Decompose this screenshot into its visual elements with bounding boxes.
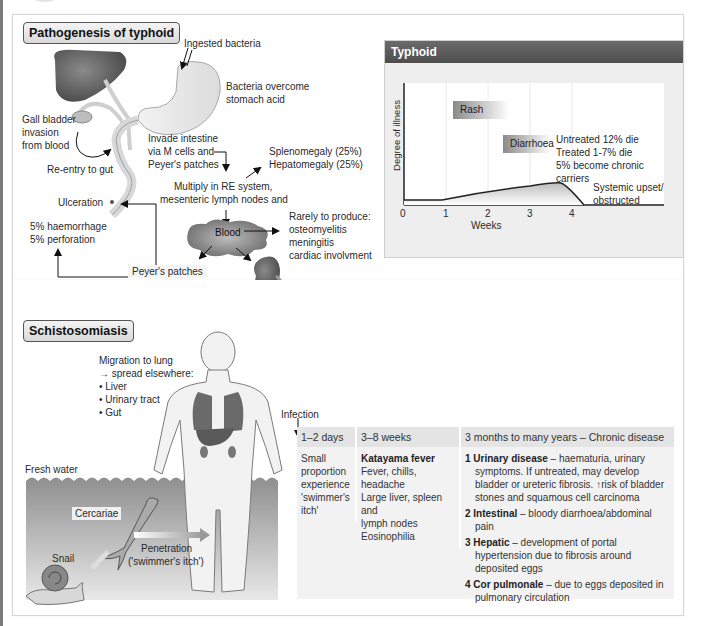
text-line: itch' <box>301 504 351 517</box>
text-line: Small <box>301 452 351 465</box>
label-snail: Snail <box>52 552 74 565</box>
table-cell-katayama: Katayama fever Fever, chills, headache L… <box>357 447 461 548</box>
text-line: Fever, chills, headache <box>361 465 455 491</box>
label-infection: Infection <box>281 408 319 421</box>
kidney-icon-right <box>228 446 236 458</box>
label-spread-elsewhere: → spread elsewhere: <box>99 367 194 380</box>
table-header-1-2-days: 1–2 days <box>297 427 357 447</box>
label-migration-lung: Migration to lung <box>99 354 173 367</box>
label-site-gut: • Gut <box>99 406 121 419</box>
label-swimmers-itch: ('swimmer's itch') <box>128 555 204 568</box>
text-line: proportion <box>301 465 351 478</box>
table-cell-early: Small proportion experience 'swimmer's i… <box>297 447 357 522</box>
item-number: 4 <box>465 579 471 590</box>
item-title: Urinary disease <box>473 453 548 464</box>
table-col-chronic: 3 months to many years – Chronic disease… <box>461 427 674 599</box>
text-line: Eosinophilia <box>361 530 455 543</box>
table-col-1-2-days: 1–2 days Small proportion experience 'sw… <box>297 427 357 599</box>
table-col-3-8-weeks: 3–8 weeks Katayama fever Fever, chills, … <box>357 427 461 599</box>
text-line: experience <box>301 478 351 491</box>
label-fresh-water: Fresh water <box>25 463 78 476</box>
label-site-liver: • Liver <box>99 380 127 393</box>
chronic-item-hepatic: 3 Hepatic – development of portal hypert… <box>465 536 670 575</box>
kidney-icon-left <box>200 446 208 458</box>
table-header-3-8-weeks: 3–8 weeks <box>357 427 461 447</box>
table-header-chronic: 3 months to many years – Chronic disease <box>461 427 674 447</box>
item-title: Intestinal <box>473 508 517 519</box>
text-line: Large liver, spleen and <box>361 491 455 517</box>
katayama-title: Katayama fever <box>361 452 455 465</box>
item-number: 2 <box>465 508 471 519</box>
chronic-item-intestinal: 2 Intestinal – bloody diarrhoea/abdomina… <box>465 507 670 533</box>
chronic-item-cor-pulmonale: 4 Cor pulmonale – due to eggs deposited … <box>465 578 670 604</box>
item-number: 1 <box>465 453 471 464</box>
label-cercariae: Cercariae <box>72 507 121 520</box>
item-title: Cor pulmonale <box>473 579 543 590</box>
text-line: 'swimmer's <box>301 491 351 504</box>
label-penetration: Penetration <box>141 542 192 555</box>
text-line: lymph nodes <box>361 517 455 530</box>
table-cell-chronic: 1 Urinary disease – haematuria, urinary … <box>461 447 674 612</box>
chronic-item-urinary: 1 Urinary disease – haematuria, urinary … <box>465 452 670 504</box>
item-title: Hepatic <box>473 537 509 548</box>
label-site-urinary: • Urinary tract <box>99 393 160 406</box>
item-number: 3 <box>465 537 471 548</box>
